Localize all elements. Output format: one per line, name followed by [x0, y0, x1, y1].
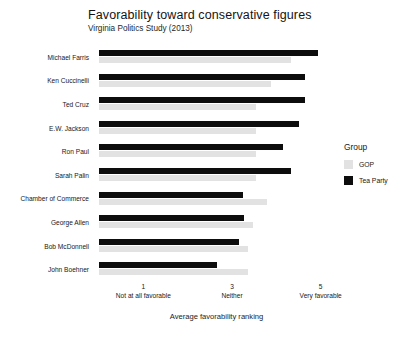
y-axis-label: E.W. Jackson — [49, 117, 89, 141]
bar-tea-party — [99, 144, 283, 150]
x-axis-tick-value: 3 — [221, 283, 242, 291]
x-axis-tick-caption: Very favorable — [300, 291, 342, 300]
bar-group — [99, 93, 334, 117]
legend-items: GOPTea Party — [344, 158, 408, 187]
bar-group — [99, 46, 334, 70]
x-axis-ticks: 1Not at all favorable3Neither5Very favor… — [99, 283, 334, 307]
y-axis-labels: Michael FarrisKen CuccinelliTed CruzE.W.… — [0, 46, 94, 282]
bar-gop — [99, 246, 248, 252]
legend-title: Group — [344, 142, 408, 152]
bar-tea-party — [99, 192, 243, 198]
x-axis-tick: 5Very favorable — [300, 283, 342, 300]
bar-group — [99, 211, 334, 235]
bar-tea-party — [99, 239, 239, 245]
bar-tea-party — [99, 121, 299, 127]
y-axis-label: Ron Paul — [62, 140, 89, 164]
bar-group — [99, 235, 334, 259]
bar-gop — [99, 151, 256, 157]
plot-area — [99, 46, 334, 282]
y-axis-label: Ken Cuccinelli — [47, 70, 89, 94]
bar-group — [99, 117, 334, 141]
y-axis-label: Bob McDonnell — [44, 235, 89, 259]
x-axis-tick-value: 1 — [116, 283, 171, 291]
bar-group — [99, 258, 334, 282]
bar-gop — [99, 199, 267, 205]
y-axis-label: George Allen — [51, 211, 89, 235]
legend: Group GOPTea Party — [344, 142, 408, 190]
x-axis-tick-caption: Neither — [221, 291, 242, 300]
bar-gop — [99, 269, 248, 275]
bar-gop — [99, 128, 256, 134]
y-axis-label: John Boehner — [48, 258, 89, 282]
bar-group — [99, 70, 334, 94]
y-axis-label: Sarah Palin — [55, 164, 89, 188]
legend-item[interactable]: Tea Party — [344, 174, 408, 187]
bar-tea-party — [99, 97, 305, 103]
bar-gop — [99, 81, 271, 87]
title-block: Favorability toward conservative figures… — [88, 8, 388, 34]
y-axis-label: Chamber of Commerce — [20, 188, 89, 212]
bar-gop — [99, 57, 291, 63]
bar-gop — [99, 175, 256, 181]
bar-group — [99, 188, 334, 212]
x-axis-tick: 3Neither — [221, 283, 242, 300]
bar-group — [99, 140, 334, 164]
legend-label: Tea Party — [359, 177, 388, 184]
bar-tea-party — [99, 215, 244, 221]
legend-swatch-icon — [344, 160, 353, 169]
bar-tea-party — [99, 74, 305, 80]
bar-group — [99, 164, 334, 188]
x-axis-tick-caption: Not at all favorable — [116, 291, 171, 300]
page-title: Favorability toward conservative figures — [88, 8, 388, 22]
x-axis-tick-value: 5 — [300, 283, 342, 291]
x-axis-tick: 1Not at all favorable — [116, 283, 171, 300]
bar-gop — [99, 104, 256, 110]
legend-swatch-icon — [344, 176, 353, 185]
y-axis-label: Ted Cruz — [63, 93, 89, 117]
bar-tea-party — [99, 168, 291, 174]
chart-subtitle: Virginia Politics Study (2013) — [88, 23, 388, 34]
bar-tea-party — [99, 50, 318, 56]
chart-canvas: Favorability toward conservative figures… — [0, 0, 410, 338]
y-axis-label: Michael Farris — [48, 46, 89, 70]
bar-tea-party — [99, 262, 217, 268]
x-axis-title: Average favorability ranking — [99, 312, 334, 321]
bar-gop — [99, 222, 253, 228]
legend-label: GOP — [359, 161, 374, 168]
legend-item[interactable]: GOP — [344, 158, 408, 171]
